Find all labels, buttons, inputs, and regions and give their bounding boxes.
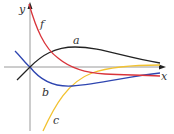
function-graph: y x f a b c — [0, 0, 174, 134]
x-axis-label: x — [161, 70, 168, 83]
curve-f-label: f — [39, 18, 46, 31]
y-axis-label: y — [18, 3, 26, 16]
curve-c-label: c — [53, 114, 59, 127]
curve-b-label: b — [42, 86, 49, 99]
x-axis-arrow-icon — [159, 65, 166, 70]
curve-b — [15, 51, 160, 86]
curve-a-label: a — [73, 34, 80, 47]
